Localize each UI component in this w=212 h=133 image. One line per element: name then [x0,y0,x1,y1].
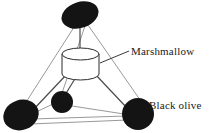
leader-marshmallow [100,51,129,63]
edge-middle-to-right [72,106,124,114]
edge-left-to-right-lower [32,116,126,119]
olive-top [58,0,102,33]
olive-bottom-middle [51,91,73,113]
stick-bottom-right [95,74,127,108]
label-black-olive: Black olive [149,99,202,111]
edge-left-to-right [30,120,128,124]
label-marshmallow: Marshmallow [131,45,194,57]
figure-drawing [0,0,212,133]
marshmallow-cylinder [62,48,99,80]
tetrahedron-model-figure: Marshmallow Black olive [0,0,212,133]
olive-bottom-left [0,95,43,133]
cylinder-top-ellipse [62,48,99,60]
